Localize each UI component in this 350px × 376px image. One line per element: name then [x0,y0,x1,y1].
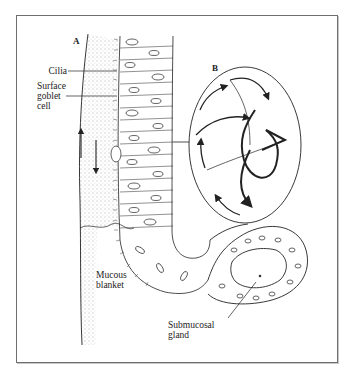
epithelium-column [111,36,210,294]
label-surface-goblet-cell: Surface goblet cell [37,81,66,111]
label-submucosal-gland: Submucosal gland [168,320,214,340]
label-line: Surface [37,81,66,91]
cilia-beat-inset [173,67,301,223]
label-line: gland [168,330,214,340]
label-line: Mucous [96,270,127,280]
panel-label-b: B [212,63,218,73]
label-mucous-blanket: Mucous blanket [96,270,127,290]
label-line: goblet [37,91,66,101]
label-line: Submucosal [168,320,214,330]
mucous-blanket-layer [79,34,134,345]
panel-label-a: A [73,36,80,46]
label-line: blanket [96,280,127,290]
label-line: cell [37,101,66,111]
submucosal-gland [208,224,308,304]
label-cilia: Cilia [30,66,67,76]
